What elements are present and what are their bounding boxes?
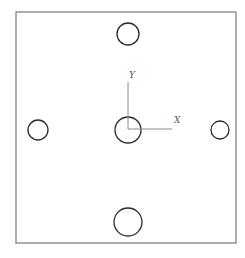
hole-left-circle <box>28 120 48 140</box>
hole-top-circle <box>117 23 139 45</box>
plate-diagram: Y X <box>0 0 245 258</box>
x-axis-label: X <box>173 115 181 125</box>
y-axis-label: Y <box>129 70 136 80</box>
hole-bottom-circle <box>114 208 142 236</box>
hole-right-circle <box>211 121 229 139</box>
